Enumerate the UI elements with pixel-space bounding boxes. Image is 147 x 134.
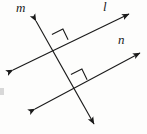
- geometry-figure: m l n: [0, 0, 147, 134]
- line-label-l: l: [103, 0, 107, 13]
- line-label-n: n: [118, 33, 125, 46]
- right-angle-marker-m-l: [52, 29, 68, 40]
- scan-artifact-left-edge: [0, 88, 4, 95]
- line-m: [36, 21, 94, 124]
- geometry-diagram-svg: [0, 0, 147, 134]
- line-n: [35, 53, 140, 109]
- line-l: [13, 14, 129, 70]
- right-angle-marker-m-n: [71, 69, 87, 80]
- line-label-m: m: [16, 1, 25, 14]
